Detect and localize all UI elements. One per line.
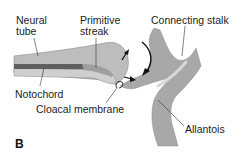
neural-tube-label: Neural tube	[16, 15, 47, 37]
notochord-label: Notochord	[15, 89, 63, 100]
primitive-streak-label-line2: streak	[80, 26, 120, 37]
cloacal-membrane-label: Cloacal membrane	[36, 104, 124, 115]
embryo-diagram-panel-b: Neural tube Primitive streak Connecting …	[0, 0, 242, 156]
neural-tube-label-line2: tube	[16, 26, 47, 37]
connecting-stalk-leader-line	[182, 26, 185, 56]
cloacal-membrane-leader-line	[106, 88, 117, 103]
panel-letter: B	[15, 137, 24, 151]
primitive-streak-label: Primitive streak	[80, 15, 120, 37]
allantois-label: Allantois	[185, 124, 225, 135]
connecting-stalk-label: Connecting stalk	[151, 15, 229, 26]
notochord-shape	[14, 64, 85, 69]
